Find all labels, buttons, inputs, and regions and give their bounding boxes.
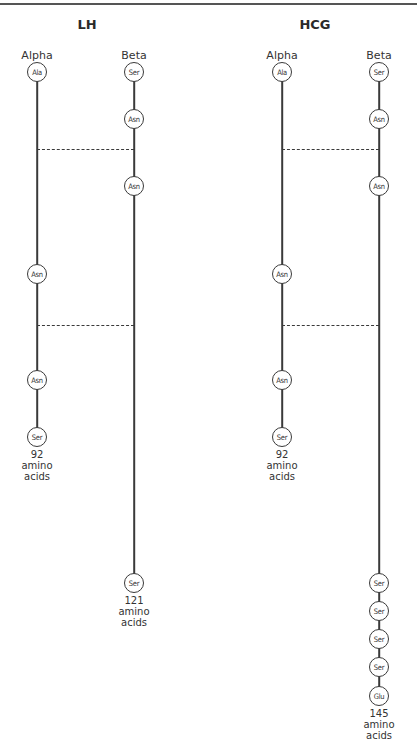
amino-count-hcg-alpha: 92 amino acids	[266, 449, 297, 482]
dashed-bridge-lh-1	[37, 149, 134, 150]
chain-label-lh-beta: Beta	[121, 49, 146, 62]
count-number: 121	[118, 595, 149, 606]
count-number: 92	[21, 449, 52, 460]
dashed-bridge-hcg-2	[282, 325, 379, 326]
count-text: acids	[118, 617, 149, 628]
count-number: 145	[363, 708, 394, 719]
residue-hcg-beta-2: Asn	[369, 109, 389, 129]
residue-lh-alpha-2: Asn	[27, 264, 47, 284]
count-number: 92	[266, 449, 297, 460]
residue-hcg-alpha-4: Ser	[272, 427, 292, 447]
count-text: acids	[266, 471, 297, 482]
residue-hcg-alpha-3: Asn	[272, 370, 292, 390]
chain-label-lh-alpha: Alpha	[21, 49, 52, 62]
residue-lh-beta-2: Asn	[124, 109, 144, 129]
panel-title-hcg: HCG	[299, 17, 330, 32]
count-text: amino	[21, 460, 52, 471]
count-text: amino	[118, 606, 149, 617]
residue-hcg-beta-8: Glu	[369, 686, 389, 706]
count-text: amino	[266, 460, 297, 471]
residue-lh-beta-4: Ser	[124, 573, 144, 593]
chain-label-hcg-beta: Beta	[366, 49, 391, 62]
residue-hcg-beta-6: Ser	[369, 629, 389, 649]
residue-lh-beta-1: Ser	[124, 62, 144, 82]
count-text: amino	[363, 719, 394, 730]
residue-hcg-beta-3: Asn	[369, 176, 389, 196]
amino-count-lh-alpha: 92 amino acids	[21, 449, 52, 482]
residue-hcg-beta-7: Ser	[369, 657, 389, 677]
residue-lh-alpha-4: Ser	[27, 427, 47, 447]
residue-lh-beta-3: Asn	[124, 176, 144, 196]
residue-hcg-alpha-1: Ala	[272, 62, 292, 82]
residue-hcg-beta-1: Ser	[369, 62, 389, 82]
dashed-bridge-hcg-1	[282, 149, 379, 150]
residue-lh-alpha-1: Ala	[27, 62, 47, 82]
amino-count-hcg-beta: 145 amino acids	[363, 708, 394, 741]
residue-hcg-beta-4: Ser	[369, 573, 389, 593]
count-text: acids	[363, 730, 394, 741]
top-border-rule	[0, 3, 417, 5]
panel-title-lh: LH	[77, 17, 96, 32]
chain-label-hcg-alpha: Alpha	[266, 49, 297, 62]
residue-hcg-alpha-2: Asn	[272, 264, 292, 284]
dashed-bridge-lh-2	[37, 325, 134, 326]
amino-count-lh-beta: 121 amino acids	[118, 595, 149, 628]
residue-lh-alpha-3: Asn	[27, 370, 47, 390]
residue-hcg-beta-5: Ser	[369, 601, 389, 621]
count-text: acids	[21, 471, 52, 482]
